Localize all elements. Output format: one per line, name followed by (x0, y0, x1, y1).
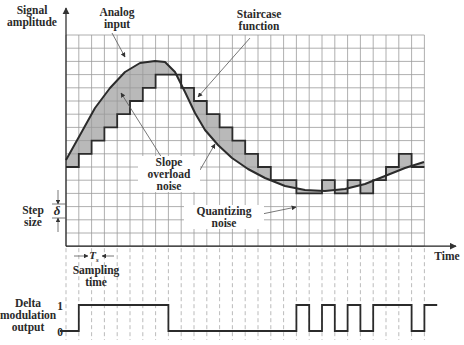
delta-modulation-diagram (0, 0, 464, 345)
level-one-label: 1 (56, 300, 64, 312)
time-axis-label: Time (432, 250, 462, 262)
step-size-label: Stepsize (16, 204, 50, 228)
y-axis-label: Signalamplitude (2, 4, 62, 28)
sampling-dashed-lines (66, 248, 424, 340)
staircase-label: Staircasefunction (224, 8, 294, 32)
slope-overload-label: Slopeoverloadnoise (138, 156, 200, 192)
delta-symbol: δ (51, 205, 63, 217)
delta-output-label: Deltamodulationoutput (0, 297, 56, 333)
quantizing-noise-label: Quantizingnoise (184, 205, 264, 229)
delta-output-waveform (60, 305, 437, 331)
analog-input-label: Analoginput (90, 6, 144, 30)
sampling-time-label: Samplingtime (66, 264, 126, 288)
level-zero-label: 0 (56, 326, 64, 338)
